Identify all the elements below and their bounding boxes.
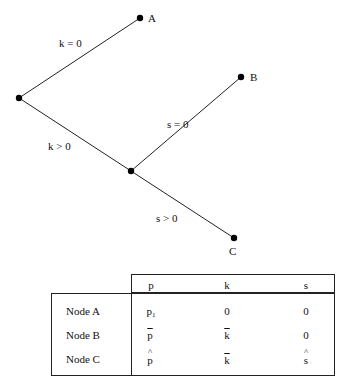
edge-label-s-gt-0: s > 0: [156, 213, 177, 224]
node-c: [231, 235, 237, 241]
header-s: s: [304, 280, 308, 291]
node-label-c: C: [229, 246, 236, 257]
edge-root-a: [19, 18, 140, 98]
cell-a-s: 0: [303, 306, 309, 317]
cell-c-p: p: [147, 355, 153, 366]
header-k: k: [224, 280, 230, 291]
cell-b-k: k: [224, 330, 230, 341]
edge-label-k-gt-0: k > 0: [48, 141, 71, 152]
node-label-a: A: [148, 13, 156, 24]
cell-b-s: 0: [303, 330, 309, 341]
cell-a-k: 0: [224, 306, 230, 317]
row-label-node-b: Node B: [66, 330, 100, 341]
node-mid: [128, 168, 134, 174]
edge-mid-c: [131, 171, 234, 238]
edge-label-k-eq-0: k = 0: [59, 38, 82, 49]
node-b: [238, 74, 244, 80]
row-label-node-c: Node C: [66, 354, 100, 365]
edge-root-mid: [19, 98, 131, 171]
row-label-node-a: Node A: [66, 306, 100, 317]
node-root: [16, 95, 22, 101]
node-label-b: B: [250, 72, 257, 83]
node-a: [137, 15, 143, 21]
cell-c-k: k: [224, 355, 230, 366]
cell-a-p: p1: [147, 306, 156, 319]
header-p: p: [148, 280, 154, 291]
table-divider: [131, 293, 132, 376]
cell-b-p: p: [147, 330, 153, 341]
cell-c-s: s: [304, 355, 308, 366]
edge-label-s-eq-0: s = 0: [167, 119, 188, 130]
